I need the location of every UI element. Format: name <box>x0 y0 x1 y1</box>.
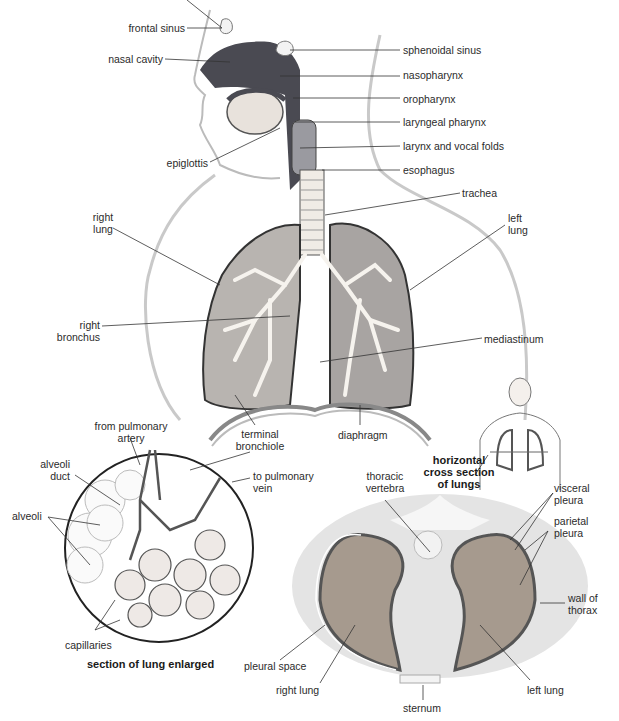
cross-section-title: horizontal cross section of lungs <box>418 454 500 490</box>
label-visceral-pleura-line1: visceral <box>554 482 590 494</box>
label-oropharynx: oropharynx <box>403 93 456 105</box>
label-terminal-bronchiole-line1: terminal <box>230 428 290 440</box>
label-laryngeal-pharynx: laryngeal pharynx <box>403 116 486 128</box>
sphenoidal-sinus-shape <box>276 41 293 55</box>
label-pleural-space: pleural space <box>244 660 306 672</box>
label-sphenoidal-sinus: sphenoidal sinus <box>403 44 481 56</box>
left-lung-shape <box>330 224 413 409</box>
label-left-lung-cross: left lung <box>527 684 564 696</box>
label-alveoli-duct-line2: duct <box>30 470 70 482</box>
enlarged-section-title: section of lung enlarged <box>87 658 214 670</box>
label-nasopharynx: nasopharynx <box>403 69 463 81</box>
trachea-shape <box>300 170 324 255</box>
label-left-lung-line2: lung <box>508 224 528 236</box>
cross-section-title-line1: horizontal <box>418 454 500 466</box>
label-right-lung-cross: right lung <box>276 684 319 696</box>
label-epiglottis: epiglottis <box>130 157 208 169</box>
label-right-lung: right lung <box>88 211 118 235</box>
label-terminal-bronchiole: terminal bronchiole <box>230 428 290 452</box>
label-to-pulmonary-vein: to pulmonary vein <box>253 470 314 494</box>
label-sternum: sternum <box>403 702 441 714</box>
label-to-pulmonary-vein-line1: to pulmonary <box>253 470 314 482</box>
label-thoracic-vertebra: thoracic vertebra <box>360 470 410 494</box>
right-lung-cross <box>320 534 403 670</box>
label-parietal-pleura-line2: pleura <box>554 527 588 539</box>
label-thoracic-vertebra-line1: thoracic <box>360 470 410 482</box>
label-alveoli: alveoli <box>12 510 42 522</box>
label-from-pulmonary-artery-line2: artery <box>90 432 172 444</box>
cross-section-title-line2: cross section <box>418 466 500 478</box>
label-from-pulmonary-artery-line1: from pulmonary <box>90 420 172 432</box>
label-wall-of-thorax: wall of thorax <box>568 592 598 616</box>
label-alveoli-duct-line1: alveoli <box>30 458 70 470</box>
label-wall-of-thorax-line2: thorax <box>568 604 598 616</box>
label-esophagus: esophagus <box>403 164 454 176</box>
label-capillaries: capillaries <box>65 639 112 651</box>
label-parietal-pleura-line1: parietal <box>554 515 588 527</box>
respiratory-system-illustration <box>0 0 619 721</box>
label-terminal-bronchiole-line2: bronchiole <box>230 440 290 452</box>
label-right-bronchus-line2: bronchus <box>50 331 100 343</box>
label-parietal-pleura: parietal pleura <box>554 515 588 539</box>
label-visceral-pleura: visceral pleura <box>554 482 590 506</box>
label-to-pulmonary-vein-line2: vein <box>253 482 314 494</box>
alveoli-enlarged-illustration <box>65 450 253 642</box>
label-wall-of-thorax-line1: wall of <box>568 592 598 604</box>
frontal-sinus-shape <box>220 19 232 34</box>
label-left-lung: left lung <box>508 212 528 236</box>
label-right-bronchus: right bronchus <box>50 319 100 343</box>
label-right-lung-line1: right <box>88 211 118 223</box>
label-visceral-pleura-line2: pleura <box>554 494 590 506</box>
label-frontal-sinus: frontal sinus <box>110 22 185 34</box>
label-nasal-cavity: nasal cavity <box>70 53 163 65</box>
label-larynx-vocal-folds: larynx and vocal folds <box>403 140 504 152</box>
label-trachea: trachea <box>462 187 497 199</box>
cross-section-title-line3: of lungs <box>418 478 500 490</box>
label-thoracic-vertebra-line2: vertebra <box>360 482 410 494</box>
label-right-bronchus-line1: right <box>50 319 100 331</box>
label-mediastinum: mediastinum <box>484 333 544 345</box>
cross-section-illustration <box>292 494 588 683</box>
label-diaphragm: diaphragm <box>338 429 388 441</box>
label-from-pulmonary-artery: from pulmonary artery <box>90 420 172 444</box>
label-right-lung-line2: lung <box>88 223 118 235</box>
label-left-lung-line1: left <box>508 212 528 224</box>
right-lung-shape <box>203 225 300 409</box>
label-alveoli-duct: alveoli duct <box>30 458 70 482</box>
